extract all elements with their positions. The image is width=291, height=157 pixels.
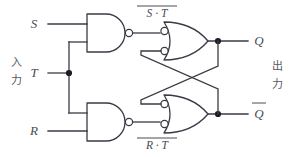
junction-dot-t xyxy=(66,70,72,76)
input-wires xyxy=(48,24,87,131)
or-gate-bottom-body xyxy=(164,95,208,133)
input-group-label-char-2: 力 xyxy=(11,74,22,87)
input-group-label-char-1: 入 xyxy=(11,56,22,69)
or-gate-top-input-bubble-upper xyxy=(161,27,168,34)
output-group-label-char-1: 出 xyxy=(272,59,283,73)
label-input-s: S xyxy=(31,16,38,31)
output-group-label-char-2: 力 xyxy=(272,78,283,91)
circuit-canvas: S T R Q Q S · T R · T 入 力 出 力 xyxy=(0,0,291,157)
or-gate-top-input-bubble-lower xyxy=(161,47,168,54)
label-input-r: R xyxy=(29,123,38,138)
signal-labels: S T R Q Q xyxy=(29,16,266,138)
or-gate-top xyxy=(161,22,248,60)
feedback-wires xyxy=(141,41,218,114)
nand-gate-bottom xyxy=(87,103,160,141)
logic-circuit-diagram: S T R Q Q S · T R · T 入 力 出 力 xyxy=(0,0,291,157)
or-gate-top-body xyxy=(164,22,208,60)
nand-gate-top-output-bubble xyxy=(125,29,132,36)
group-label-input: 入 力 xyxy=(11,56,22,87)
label-bottom-nand-expression: R · T xyxy=(145,139,170,151)
group-label-output: 出 力 xyxy=(272,59,283,91)
nand-gate-bottom-output-bubble xyxy=(125,118,132,125)
label-output-q: Q xyxy=(254,33,264,48)
or-gate-bottom xyxy=(161,95,248,133)
label-output-qnot: Q xyxy=(254,106,264,121)
nand-gate-top-body xyxy=(87,14,125,52)
nand-gate-top xyxy=(87,14,160,52)
or-gate-bottom-input-bubble-upper xyxy=(161,100,168,107)
intermediate-expression-labels: S · T R · T xyxy=(137,6,177,151)
label-top-nand-expression: S · T xyxy=(147,7,169,19)
or-gate-bottom-input-bubble-lower xyxy=(161,120,168,127)
nand-gate-bottom-body xyxy=(87,103,125,141)
label-input-t: T xyxy=(30,65,38,80)
